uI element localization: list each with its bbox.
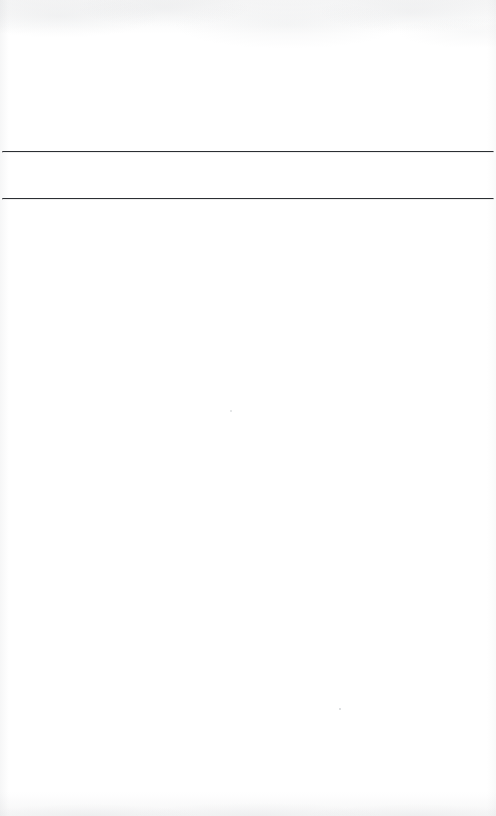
scanned-document-page xyxy=(0,0,496,816)
field-band-between-rules xyxy=(2,145,492,190)
body-blank-area xyxy=(2,192,494,816)
header-blank-area xyxy=(2,0,494,143)
